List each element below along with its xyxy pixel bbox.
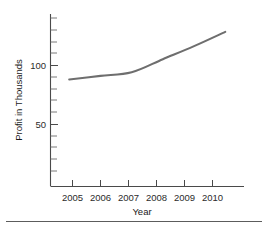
bottom-divider	[6, 221, 262, 222]
line-chart: 50 100 2005 2006 2007 2008 2009 2010 Yea…	[0, 0, 267, 230]
chart-container: 50 100 2005 2006 2007 2008 2009 2010 Yea…	[0, 0, 267, 230]
x-tick-label-2009: 2009	[174, 192, 195, 203]
x-axis-ticks	[73, 180, 213, 187]
x-tick-label-2007: 2007	[118, 192, 139, 203]
data-series-profit	[69, 32, 225, 80]
y-axis-major-ticks	[51, 66, 59, 125]
x-tick-label-2006: 2006	[90, 192, 111, 203]
y-axis-minor-ticks	[51, 18, 58, 171]
y-axis-title: Profit in Thousands	[13, 59, 24, 141]
x-tick-label-2010: 2010	[202, 192, 223, 203]
x-axis-title: Year	[132, 206, 151, 217]
x-tick-label-2005: 2005	[62, 192, 83, 203]
y-tick-label-50: 50	[35, 119, 46, 130]
x-tick-label-2008: 2008	[146, 192, 167, 203]
y-tick-label-100: 100	[30, 60, 46, 71]
